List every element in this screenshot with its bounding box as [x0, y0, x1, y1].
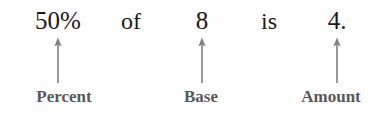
- label-base: Base: [184, 88, 218, 105]
- label-percent: Percent: [36, 88, 91, 105]
- arrow-up-icon-amount: [331, 37, 344, 83]
- equation-base-value: 8: [196, 8, 209, 33]
- arrow-up-icon-percent: [52, 37, 65, 83]
- arrow-up-icon-base: [196, 37, 209, 83]
- equation-percent-value: 50%: [35, 8, 81, 33]
- percent-equation-diagram: 50% of 8 is 4. Percent Base Amount: [0, 0, 379, 117]
- equation-is-word: is: [261, 9, 277, 33]
- equation-amount-value: 4.: [328, 8, 347, 33]
- equation-of-word: of: [121, 9, 141, 33]
- label-amount: Amount: [301, 88, 361, 105]
